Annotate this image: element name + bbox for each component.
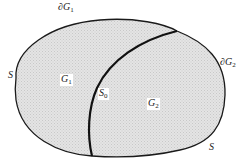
label-s0: S0 (98, 88, 109, 100)
label-dG1: ∂G1 (58, 2, 74, 14)
label-s-left: S (8, 70, 13, 80)
label-g1: G1 (60, 74, 73, 86)
label-g2: G2 (147, 98, 160, 110)
diagram-canvas (0, 0, 244, 167)
outer-boundary (15, 19, 225, 157)
label-s-right: S (209, 142, 214, 152)
label-dG2: ∂G2 (220, 57, 236, 69)
